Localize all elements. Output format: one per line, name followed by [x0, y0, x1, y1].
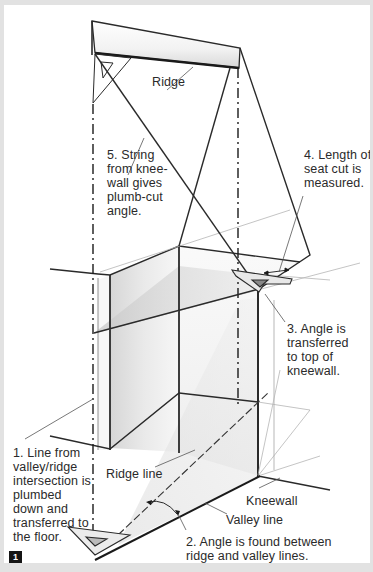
- label-ridge: Ridge: [152, 75, 185, 89]
- label-kneewall: Kneewall: [246, 494, 298, 508]
- illustration-panel: Ridge 5. String from knee- wall gives pl…: [4, 5, 370, 563]
- label-step5-string: 5. String from knee- wall gives plumb-cu…: [107, 148, 168, 218]
- label-valley-line: Valley line: [226, 513, 283, 527]
- figure-number-badge: 1: [9, 551, 22, 563]
- label-step1-plumb-line: 1. Line from valley/ridge intersection i…: [13, 446, 91, 544]
- ridge-beam: [92, 21, 240, 68]
- label-step3-angle-transfer: 3. Angle is transferred to top of kneewa…: [287, 322, 349, 378]
- label-ridge-line: Ridge line: [106, 467, 163, 481]
- label-step4-seat-cut: 4. Length of seat cut is measured.: [304, 148, 370, 190]
- label-step2-angle: 2. Angle is found between ridge and vall…: [186, 535, 332, 563]
- figure-frame: Ridge 5. String from knee- wall gives pl…: [0, 0, 373, 572]
- left-wall-side: [98, 275, 110, 450]
